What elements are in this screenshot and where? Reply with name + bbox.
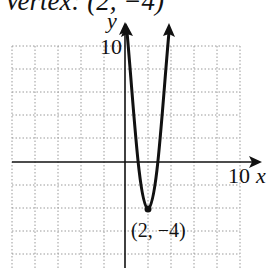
vertex-point	[145, 206, 152, 213]
x-tick-label: 10	[228, 163, 250, 188]
parabola-chart: y 10 10 x (2, −4)	[0, 0, 268, 268]
y-tick-label: 10	[100, 34, 122, 59]
vertex-label: (2, −4)	[131, 219, 186, 242]
y-axis-label: y	[105, 8, 117, 33]
x-axis-label: x	[255, 163, 266, 188]
grid	[12, 46, 240, 268]
